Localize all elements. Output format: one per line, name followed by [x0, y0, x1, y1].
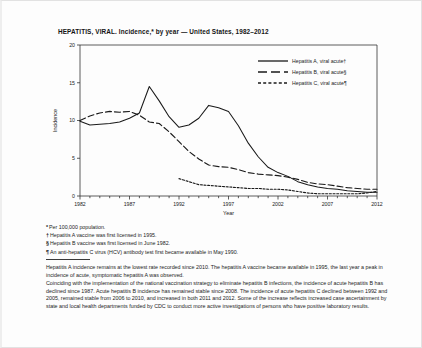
- y-tick-label: 5: [72, 155, 75, 161]
- x-tick-label: 2007: [322, 201, 334, 207]
- legend-item: Hepatitis A, viral acute†: [258, 56, 388, 65]
- section-divider: [46, 259, 90, 260]
- footnote-list: *Per 100,000 population. †Hepatitis A va…: [46, 223, 396, 256]
- y-tick-label: 15: [69, 80, 75, 86]
- footnote-mark: ¶: [46, 249, 49, 255]
- footnote-text: Per 100,000 population.: [49, 224, 105, 230]
- legend-label-hepatitis-c: Hepatitis C, viral acute¶: [292, 79, 347, 87]
- footnote-item: †Hepatitis A vaccine was first licensed …: [46, 231, 396, 239]
- footnote-item: *Per 100,000 population.: [46, 223, 396, 231]
- footnote-text: Hepatitis A vaccine was first licensed i…: [50, 232, 157, 238]
- x-tick-label: 1992: [173, 201, 185, 207]
- chart-container: 051015201982198719921997200220072012Year…: [46, 37, 386, 223]
- legend-swatch-hepatitis-c-icon: [258, 79, 288, 87]
- figure-page: HEPATITIS, VIRAL. Incidence,* by year — …: [0, 0, 422, 348]
- series-line-hepatitis-b: [80, 111, 377, 189]
- commentary-paragraph: Hepatitis A incidence remains at the low…: [46, 264, 394, 279]
- series-line-hepatitis-a: [80, 87, 377, 193]
- x-tick-label: 1997: [223, 201, 235, 207]
- series-line-hepatitis-c: [179, 179, 377, 194]
- chart-legend: Hepatitis A, viral acute† Hepatitis B, v…: [258, 56, 388, 89]
- y-tick-label: 10: [69, 117, 75, 123]
- legend-item: Hepatitis B, viral acute§: [258, 67, 388, 76]
- footnote-text: Hepatitis B vaccine was first licensed i…: [50, 240, 170, 246]
- page-title: HEPATITIS, VIRAL. Incidence,* by year — …: [58, 28, 269, 35]
- y-tick-label: 0: [72, 193, 75, 199]
- legend-swatch-hepatitis-a-icon: [258, 57, 288, 65]
- footnote-item: §Hepatitis B vaccine was first licensed …: [46, 239, 396, 247]
- legend-label-hepatitis-a: Hepatitis A, viral acute†: [292, 57, 346, 65]
- footnote-mark: §: [46, 240, 49, 246]
- footnote-text: An anti-hepatitis C virus (HCV) antibody…: [50, 249, 238, 255]
- y-tick-label: 20: [69, 42, 75, 48]
- x-tick-label: 1987: [124, 201, 136, 207]
- x-axis-title: Year: [223, 210, 234, 216]
- legend-item: Hepatitis C, viral acute¶: [258, 78, 388, 87]
- x-tick-label: 1982: [74, 201, 86, 207]
- y-axis-title: Incidence: [52, 109, 58, 132]
- x-tick-label: 2012: [371, 201, 383, 207]
- x-tick-label: 2002: [272, 201, 284, 207]
- commentary-paragraph: Coinciding with the implementation of th…: [46, 280, 394, 310]
- footnote-item: ¶An anti-hepatitis C virus (HCV) antibod…: [46, 248, 396, 256]
- legend-label-hepatitis-b: Hepatitis B, viral acute§: [292, 68, 347, 76]
- commentary-block: Hepatitis A incidence remains at the low…: [46, 264, 394, 312]
- footnote-mark: *: [46, 224, 48, 230]
- footnote-mark: †: [46, 232, 49, 238]
- legend-swatch-hepatitis-b-icon: [258, 68, 288, 76]
